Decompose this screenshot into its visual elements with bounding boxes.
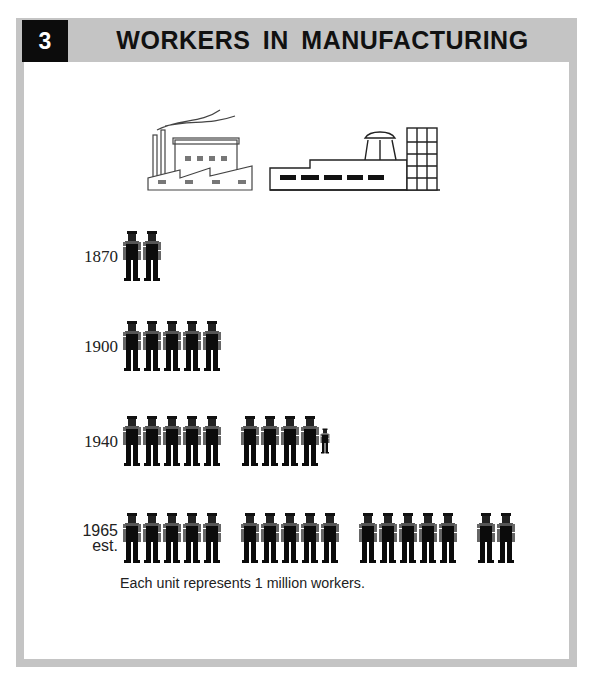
modern-factory-icon: [270, 128, 440, 190]
worker-icon: [476, 512, 496, 564]
worker-icon: [142, 415, 162, 467]
worker-icons: [122, 320, 240, 372]
worker-icon: [182, 512, 202, 564]
row-1940: 1940: [60, 415, 348, 467]
worker-icon: [438, 512, 458, 564]
worker-icon: [142, 320, 162, 372]
worker-icon: [260, 415, 280, 467]
row-1900: 1900: [60, 320, 240, 372]
year-label: 1870: [60, 249, 122, 264]
factories-illustration: [140, 100, 440, 195]
worker-icons: [122, 415, 348, 467]
worker-icon: [182, 415, 202, 467]
worker-icon: [122, 512, 142, 564]
worker-icon: [162, 415, 182, 467]
header-band: 3 WORKERS IN MANUFACTURING: [16, 18, 577, 62]
figure-number: 3: [22, 20, 68, 62]
worker-icon: [182, 320, 202, 372]
row-1870: 1870: [60, 230, 180, 282]
worker-icon: [320, 512, 340, 564]
worker-icon: [398, 512, 418, 564]
row-1965: 1965 est.: [60, 512, 534, 564]
worker-icon: [300, 415, 320, 467]
worker-icon: [300, 512, 320, 564]
worker-icon: [202, 415, 222, 467]
worker-icon: [358, 512, 378, 564]
worker-icon: [162, 512, 182, 564]
year-label: 1900: [60, 339, 122, 354]
worker-icon: [240, 415, 260, 467]
chart-title: WORKERS IN MANUFACTURING: [68, 18, 577, 62]
old-factory-icon: [148, 110, 252, 190]
legend-note: Each unit represents 1 million workers.: [120, 574, 365, 592]
worker-icon: [378, 512, 398, 564]
worker-icon: [142, 230, 162, 282]
worker-icon: [122, 230, 142, 282]
worker-icon: [162, 320, 182, 372]
worker-icon: [202, 320, 222, 372]
worker-icon: [496, 512, 516, 564]
worker-icon: [260, 512, 280, 564]
worker-icon: [202, 512, 222, 564]
worker-icon: [122, 320, 142, 372]
worker-icons: [122, 230, 180, 282]
year-label: 1965 est.: [60, 523, 122, 553]
year-label: 1940: [60, 434, 122, 449]
worker-icon: [280, 512, 300, 564]
worker-icons: [122, 512, 534, 564]
worker-icon: [280, 415, 300, 467]
worker-icon: [142, 512, 162, 564]
worker-icon: [122, 415, 142, 467]
worker-icon: [240, 512, 260, 564]
worker-icon: [418, 512, 438, 564]
partial-worker-icon: [320, 415, 330, 467]
